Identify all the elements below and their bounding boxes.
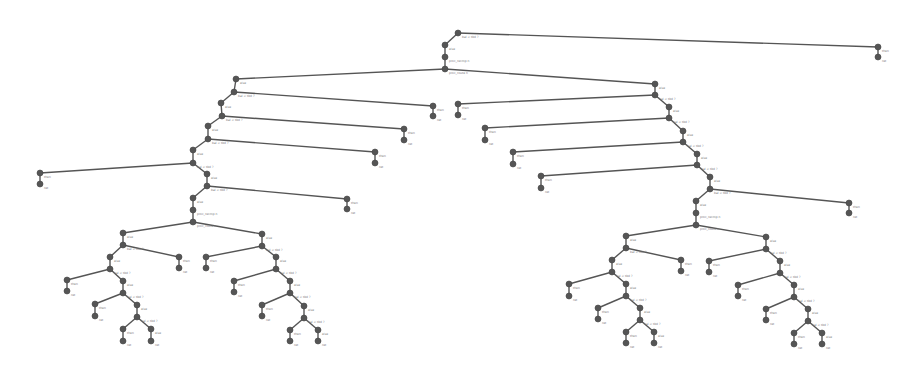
- node-label: bal < tbd ?: [141, 319, 158, 323]
- tree-node: ret: [482, 137, 494, 146]
- node-label: ret: [210, 270, 215, 274]
- node-label: then: [545, 178, 552, 182]
- tree-node: else: [637, 305, 650, 314]
- node-label: ret: [294, 343, 299, 347]
- node-dot-icon: [706, 269, 712, 275]
- node-label: else: [812, 311, 818, 315]
- tree-edge: [222, 116, 404, 129]
- tree-node: then: [401, 126, 415, 135]
- node-dot-icon: [735, 282, 741, 288]
- tree-node: else: [259, 231, 272, 240]
- node-label: bal < tbd ?: [798, 299, 815, 303]
- node-label: bal < tbd ?: [812, 323, 829, 327]
- node-dot-icon: [205, 136, 211, 142]
- node-dot-icon: [204, 171, 210, 177]
- tree-node: ret: [566, 293, 578, 302]
- node-dot-icon: [693, 222, 699, 228]
- node-dot-icon: [92, 301, 98, 307]
- node-dot-icon: [203, 254, 209, 260]
- node-label: else: [266, 236, 272, 240]
- node-label: proc_recmp n: [700, 215, 720, 219]
- node-dot-icon: [219, 113, 225, 119]
- node-dot-icon: [791, 294, 797, 300]
- tree-node: bal < tbd ?: [637, 317, 661, 326]
- tree-node: then: [455, 101, 469, 110]
- node-label: bal < tbd ?: [266, 248, 283, 252]
- tree-node: bal < tbd ?: [273, 266, 297, 275]
- node-dot-icon: [777, 270, 783, 276]
- node-label: then: [238, 283, 245, 287]
- node-dot-icon: [595, 305, 601, 311]
- node-label: bal < tbd ?: [673, 120, 690, 124]
- tree-node: else: [707, 174, 720, 183]
- tree-node: bal < tbd ?: [805, 318, 829, 327]
- node-label: bal < tbd ?: [212, 141, 229, 145]
- node-dot-icon: [666, 104, 672, 110]
- node-label: then: [99, 306, 106, 310]
- node-dot-icon: [190, 219, 196, 225]
- tree-edge: [709, 249, 766, 261]
- node-dot-icon: [287, 290, 293, 296]
- node-label: bal < tbd ?: [770, 251, 787, 255]
- node-dot-icon: [678, 268, 684, 274]
- tree-node: then: [176, 254, 190, 263]
- node-label: bal < tbd ?: [784, 275, 801, 279]
- node-dot-icon: [205, 123, 211, 129]
- node-dot-icon: [401, 126, 407, 132]
- tree-edges: [40, 33, 878, 344]
- tree-nodes: bal < tbd ?elseproc_recmp nproc_route nt…: [37, 30, 889, 350]
- tree-node: else: [204, 171, 217, 180]
- node-label: bal < tbd ?: [197, 165, 214, 169]
- tree-node: else: [763, 234, 776, 243]
- node-dot-icon: [190, 147, 196, 153]
- tree-node: bal < tbd ?: [107, 266, 131, 275]
- node-label: ret: [826, 346, 831, 350]
- node-dot-icon: [791, 330, 797, 336]
- node-dot-icon: [344, 206, 350, 212]
- node-dot-icon: [120, 326, 126, 332]
- tree-node: else: [273, 254, 286, 263]
- node-dot-icon: [401, 137, 407, 143]
- node-label: then: [266, 307, 273, 311]
- tree-node: else: [148, 326, 161, 335]
- tree-node: proc_route n: [190, 219, 216, 228]
- tree-node: bal < tbd ?: [763, 246, 787, 255]
- node-label: bal < tbd ?: [687, 144, 704, 148]
- tree-node: bal < tbd ?: [205, 136, 229, 145]
- node-dot-icon: [637, 305, 643, 311]
- node-label: ret: [155, 343, 160, 347]
- tree-node: then: [846, 200, 860, 209]
- tree-edge: [445, 69, 655, 84]
- tree-node: bal < tbd ?: [455, 30, 479, 39]
- tree-node: bal < tbd ?: [120, 290, 144, 299]
- tree-node: ret: [510, 161, 522, 170]
- node-label: then: [183, 259, 190, 263]
- tree-node: ret: [455, 112, 467, 121]
- node-label: ret: [489, 142, 494, 146]
- node-dot-icon: [693, 198, 699, 204]
- node-dot-icon: [763, 234, 769, 240]
- node-dot-icon: [203, 265, 209, 271]
- node-dot-icon: [763, 306, 769, 312]
- node-dot-icon: [442, 54, 448, 60]
- node-dot-icon: [637, 317, 643, 323]
- node-dot-icon: [694, 151, 700, 157]
- node-dot-icon: [372, 160, 378, 166]
- node-dot-icon: [623, 233, 629, 239]
- node-dot-icon: [259, 231, 265, 237]
- node-label: then: [742, 287, 749, 291]
- tree-edge: [123, 222, 193, 233]
- tree-node: else: [315, 327, 328, 336]
- node-label: then: [379, 154, 386, 158]
- node-label: else: [714, 179, 720, 183]
- tree-node: bal < tbd ?: [791, 294, 815, 303]
- tree-edge: [766, 297, 794, 309]
- node-dot-icon: [107, 254, 113, 260]
- tree-node: else: [694, 151, 707, 160]
- tree-node: then: [372, 149, 386, 158]
- tree-edge: [207, 186, 347, 199]
- node-label: ret: [437, 118, 442, 122]
- tree-node: bal < tbd ?: [259, 243, 283, 252]
- tree-node: bal < tbd ?: [623, 293, 647, 302]
- node-label: else: [616, 262, 622, 266]
